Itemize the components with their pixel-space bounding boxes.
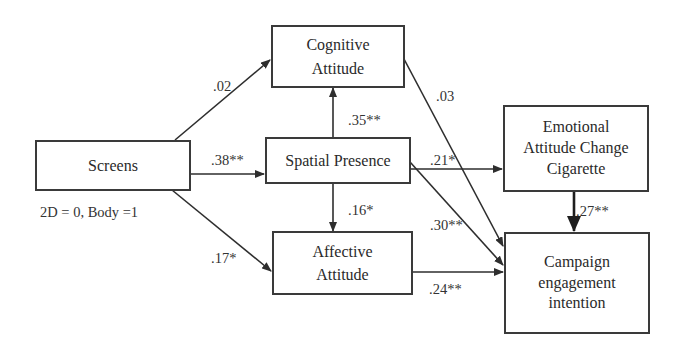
node-emotional-line3: Cigarette (547, 159, 606, 180)
node-affective-line2: Attitude (316, 263, 368, 286)
node-campaign-line3: intention (549, 293, 606, 314)
coef-spatial-cognitive: .35** (348, 112, 381, 129)
coef-cognitive-campaign: .03 (436, 88, 454, 105)
coef-screens-spatial: .38** (211, 152, 244, 169)
coef-screens-affective: .17* (211, 250, 236, 267)
path-screens-cognitive (175, 60, 270, 140)
coef-spatial-emotional: .21* (430, 152, 455, 169)
coef-screens-cognitive: .02 (213, 78, 231, 95)
node-affective-line1: Affective (312, 240, 372, 263)
node-campaign-engagement: Campaign engagement intention (504, 232, 650, 334)
coef-spatial-affective: .16* (348, 202, 373, 219)
node-spatial-label: Spatial Presence (285, 149, 390, 172)
screens-coding-note: 2D = 0, Body =1 (40, 204, 138, 221)
node-emotional-line2: Attitude Change (523, 138, 628, 159)
coef-spatial-campaign: .30** (430, 217, 463, 234)
node-cognitive-line2: Attitude (312, 57, 364, 80)
node-cognitive-line1: Cognitive (306, 33, 369, 56)
path-spatial-campaign (410, 162, 503, 265)
node-screens: Screens (35, 140, 191, 191)
node-spatial-presence: Spatial Presence (265, 137, 411, 184)
node-emotional-attitude-change: Emotional Attitude Change Cigarette (503, 105, 649, 192)
node-emotional-line1: Emotional (543, 117, 610, 138)
node-screens-label: Screens (88, 154, 138, 177)
node-cognitive-attitude: Cognitive Attitude (271, 25, 405, 88)
node-affective-attitude: Affective Attitude (272, 231, 413, 295)
node-campaign-line2: engagement (538, 273, 615, 294)
coef-emotional-campaign: .27** (576, 203, 609, 220)
node-campaign-line1: Campaign (544, 252, 610, 273)
coef-affective-campaign: .24** (429, 281, 462, 298)
